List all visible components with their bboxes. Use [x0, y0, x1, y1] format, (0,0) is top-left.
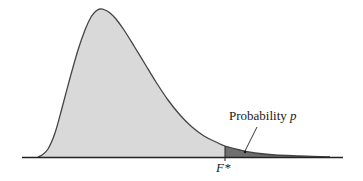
probability-variable: p: [290, 108, 297, 123]
critical-value-label: F*: [216, 160, 230, 176]
probability-label: Probability p: [229, 108, 297, 124]
probability-text: Probability: [229, 108, 290, 123]
distribution-body-area: [38, 9, 225, 157]
f-distribution-chart: [0, 0, 363, 181]
pointer-dot: [244, 151, 246, 153]
annotation-pointer: [245, 127, 257, 151]
